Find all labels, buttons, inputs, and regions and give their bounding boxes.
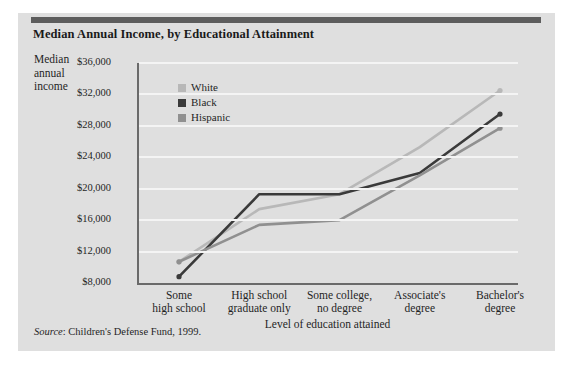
series-endpoint-black [497,111,502,116]
y-axis-tick-labels: $36,000$32,000$28,000$24,000$20,000$16,0… [18,63,135,285]
y-tick-label: $16,000 [77,213,111,224]
figure-panel: Median Annual Income, by Educational Att… [18,13,555,351]
legend-label: White [191,82,218,93]
gridline [139,62,518,64]
legend-label: Hispanic [191,112,230,123]
source-text: : Children's Defense Fund, 1999. [63,326,201,337]
gridline [139,251,518,253]
chart-title: Median Annual Income, by Educational Att… [33,27,314,42]
legend-swatch-icon [178,99,186,107]
series-endpoint-black [176,274,181,279]
source-label: Source [34,326,63,337]
y-tick-label: $36,000 [77,56,111,67]
y-tick-label: $28,000 [77,119,111,130]
y-tick-label: $8,000 [82,276,111,287]
gridline [139,156,518,158]
legend-item-hispanic: Hispanic [178,111,230,124]
legend-item-black: Black [178,96,230,109]
y-tick-label: $12,000 [77,245,111,256]
x-tick-label-line: degree [440,302,560,315]
source-note: Source: Children's Defense Fund, 1999. [34,326,201,337]
legend-item-white: White [178,81,230,94]
y-tick-label: $20,000 [77,182,111,193]
x-tick-label: Bachelor'sdegree [440,289,560,315]
legend-swatch-icon [178,84,186,92]
decorative-top-bar [31,17,541,23]
gridline [139,188,518,190]
y-tick-label: $24,000 [77,150,111,161]
y-tick-label: $32,000 [77,87,111,98]
legend-label: Black [191,97,217,108]
x-axis-line [137,283,518,285]
series-endpoint-hispanic [176,259,181,264]
legend-swatch-icon [178,114,186,122]
x-tick-label-line: Bachelor's [440,289,560,302]
series-endpoint-white [497,88,502,93]
legend: WhiteBlackHispanic [178,81,230,126]
gridline [139,219,518,221]
